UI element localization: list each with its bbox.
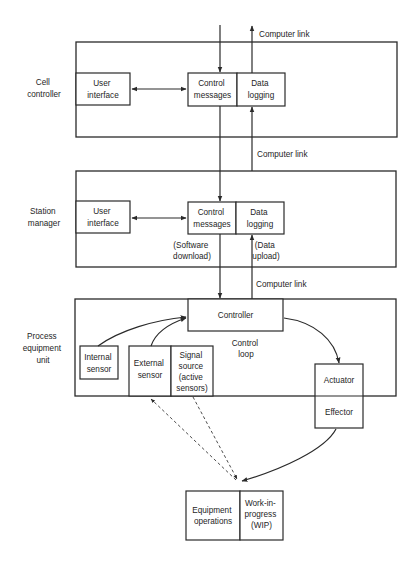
process-box: Equipment operations Work-in- progress (… — [186, 491, 283, 540]
process-equipment-level: Process equipment unit Controller Contro… — [23, 299, 396, 428]
internal-sensor-box — [80, 346, 118, 379]
cell-user-interface-box — [76, 73, 130, 105]
cell-data-logging-box — [237, 73, 285, 106]
equipment-operations-box — [186, 491, 240, 540]
controller-label: Controller — [218, 311, 254, 320]
internal-sensor-to-controller-arrow — [98, 317, 186, 346]
data-upload-label: (Data upload) — [252, 241, 280, 261]
process-to-external-sensor-dashed-arrow — [151, 399, 236, 480]
station-control-messages-box — [188, 202, 236, 234]
computer-link-label-bottom: Computer link — [256, 280, 307, 289]
cell-controller-level: Cell controller User interface Control m… — [27, 25, 397, 137]
process-control-hierarchy-diagram: Cell controller User interface Control m… — [0, 0, 420, 561]
station-data-logging-box — [236, 202, 284, 234]
station-manager-level: Station manager User interface Control m… — [28, 171, 396, 267]
effector-label: Effector — [325, 408, 353, 417]
computer-link-label-top: Computer link — [259, 30, 310, 39]
control-loop-label: Control loop — [232, 339, 261, 359]
effector-to-process-arrow — [242, 429, 336, 481]
process-equipment-label: Process equipment unit — [23, 332, 64, 365]
station-user-interface-box — [76, 201, 130, 233]
controller-to-actuator-arrow — [284, 318, 339, 363]
cell-control-messages-box — [188, 73, 237, 106]
cell-controller-label: Cell controller — [27, 78, 61, 99]
signal-source-to-process-dashed-arrow — [193, 397, 237, 479]
station-manager-label: Station manager — [28, 207, 61, 228]
software-download-label: (Software download) — [173, 241, 211, 261]
actuator-label: Actuator — [324, 376, 355, 385]
computer-link-label-middle: Computer link — [257, 150, 308, 159]
